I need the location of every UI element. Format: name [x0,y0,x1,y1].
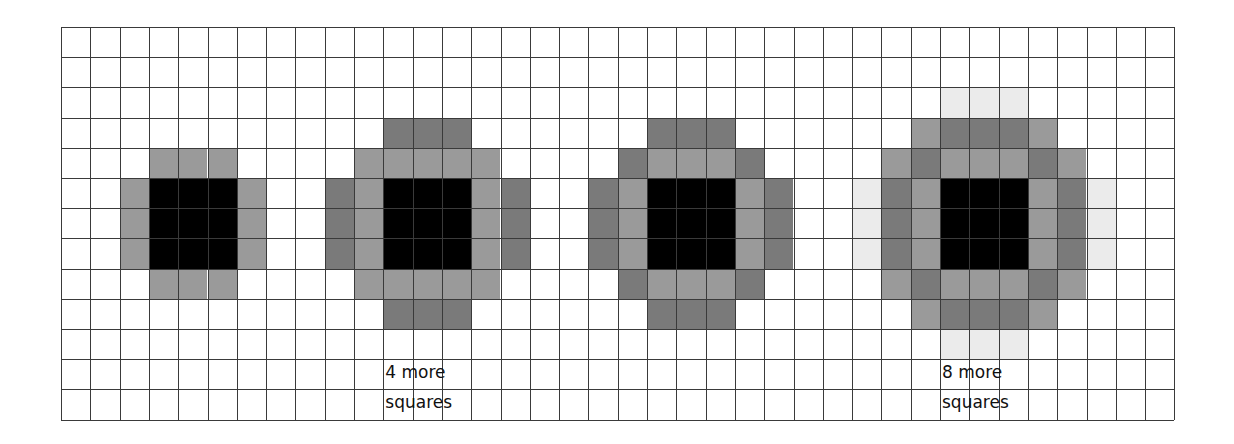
figure-4-light-square [1087,178,1116,208]
figure-4-light-square [1087,208,1116,238]
figure-1-medium-square [237,208,266,238]
figure-4-dark-square [881,238,910,268]
figure-2-medium-square [442,269,471,299]
grid-line-vertical [735,27,736,420]
grid-line-vertical [1174,27,1175,420]
grid-line-horizontal [61,87,1174,88]
figure-4-medium-square [1028,118,1057,148]
figure-2-medium-square [471,238,500,268]
figure-4-dark-square [911,148,940,178]
figure-1-medium-square [178,148,207,178]
grid-line-vertical [354,27,355,420]
grid-line-vertical [647,27,648,420]
figure-4-dark-square [969,118,998,148]
grid-line-vertical [120,27,121,420]
figure-4-light-square [852,238,881,268]
figure-3-medium-square [618,238,647,268]
grid-line-vertical [149,27,150,420]
figure-2-medium-square [413,148,442,178]
figure-4-medium-square [911,238,940,268]
grid-line-horizontal [61,57,1174,58]
figure-2-dark-square [325,178,354,208]
grid-line-vertical [1087,27,1088,420]
figure-3-dark-square [676,299,705,329]
grid-line-horizontal [61,238,1174,239]
figure-3-dark-square [618,148,647,178]
grid-line-horizontal [61,208,1174,209]
figure-4-light-square [1087,238,1116,268]
grid-line-vertical [530,27,531,420]
figure-4-dark-square [1057,178,1086,208]
figure-2-dark-square [325,238,354,268]
figure-3-medium-square [647,269,676,299]
figure-1-medium-square [237,238,266,268]
grid-line-vertical [295,27,296,420]
figure-3-dark-square [764,178,793,208]
figure-4-dark-square [1057,238,1086,268]
grid-line-horizontal [61,148,1174,149]
figure-2-medium-square [471,269,500,299]
figure-4-dark-square [940,118,969,148]
figure-4-medium-square [1057,269,1086,299]
figure-3-medium-square [706,148,735,178]
figure-4-light-square [999,329,1028,359]
figure-2-medium-square [354,208,383,238]
figure-4-medium-square [1028,178,1057,208]
figure-3-dark-square [764,238,793,268]
grid-line-vertical [764,27,765,420]
figure-4-medium-square [940,148,969,178]
figure-2-medium-square [354,148,383,178]
figure-2-dark-square [383,299,412,329]
grid-line-horizontal [61,178,1174,179]
grid-line-vertical [852,27,853,420]
grid-line-vertical [325,27,326,420]
figure-3-medium-square [618,208,647,238]
figure-4-medium-square [940,269,969,299]
grid-line-vertical [1145,27,1146,420]
figure-4-dark-square [940,299,969,329]
figure-4-light-square [852,178,881,208]
figure-3-medium-square [618,178,647,208]
figure-4-medium-square [911,299,940,329]
figure-3-dark-square [706,118,735,148]
grid-line-vertical [794,27,795,420]
grid-line-vertical [90,27,91,420]
grid-line-vertical [676,27,677,420]
figure-4-dark-square [999,118,1028,148]
figure-3-medium-square [706,269,735,299]
figure-3-dark-square [618,269,647,299]
figure-3-medium-square [735,208,764,238]
figure-4-medium-square [1028,238,1057,268]
figure-2-medium-square [354,269,383,299]
figure-4-light-square [940,87,969,117]
figure-4-dark-square [999,299,1028,329]
figure-2-dark-square [413,118,442,148]
figure-4-medium-square [1057,148,1086,178]
figure-4-medium-square [1028,208,1057,238]
figure-3-dark-square [676,118,705,148]
figure-2-label-line2: squares [385,387,452,417]
grid-line-vertical [471,27,472,420]
figure-1-medium-square [120,208,149,238]
grid-line-vertical [823,27,824,420]
figure-3-dark-square [588,238,617,268]
figure-3-medium-square [676,269,705,299]
figure-4-dark-square [1028,269,1057,299]
figure-2-dark-square [383,118,412,148]
grid-line-vertical [881,27,882,420]
figure-4-medium-square [911,118,940,148]
figure-2-label-line1: 4 more [385,357,445,387]
grid-line-vertical [383,27,384,420]
grid-line-vertical [1116,27,1117,420]
figure-2-medium-square [442,148,471,178]
figure-3-dark-square [647,118,676,148]
figure-2-dark-square [442,299,471,329]
figure-3-dark-square [735,269,764,299]
grid-line-vertical [178,27,179,420]
figure-3-dark-square [588,178,617,208]
figure-4-label-line1: 8 more [942,357,1002,387]
figure-2-dark-square [501,178,530,208]
figure-4-medium-square [911,178,940,208]
square-grid [61,27,1174,420]
figure-4-medium-square [969,148,998,178]
